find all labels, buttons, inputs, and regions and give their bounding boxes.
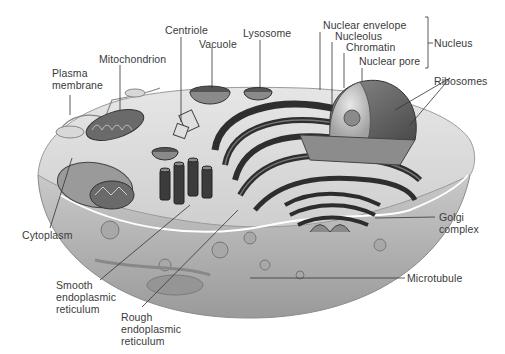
- label-cytoplasm: Cytoplasm: [22, 229, 73, 241]
- label-nuclear-pore: Nuclear pore: [359, 55, 420, 67]
- label-smooth-er: Smooth endoplasmic reticulum: [56, 279, 116, 315]
- label-lysosome: Lysosome: [243, 27, 291, 39]
- label-ribosomes: Ribosomes: [434, 75, 487, 87]
- label-plasma-membrane: Plasma membrane: [52, 67, 103, 91]
- cell-diagram: Centriole Vacuole Lysosome Mitochondrion…: [0, 0, 505, 354]
- label-rough-er: Rough endoplasmic reticulum: [121, 311, 181, 347]
- label-microtubule: Microtubule: [407, 272, 462, 284]
- label-golgi-complex: Golgi complex: [439, 211, 479, 235]
- label-vacuole: Vacuole: [199, 38, 237, 50]
- label-chromatin: Chromatin: [346, 41, 395, 53]
- label-mitochondrion: Mitochondrion: [99, 53, 166, 65]
- label-centriole: Centriole: [165, 24, 208, 36]
- nucleolus: [344, 110, 360, 126]
- label-nucleus: Nucleus: [434, 37, 473, 49]
